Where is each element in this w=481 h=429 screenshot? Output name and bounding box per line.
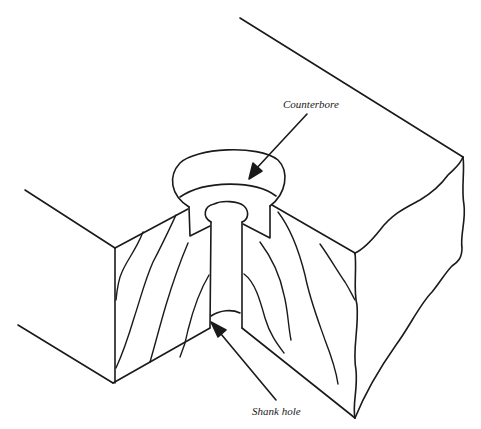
right-section-top-edge <box>272 205 355 253</box>
counterbore-left-wall <box>189 207 210 236</box>
right-block <box>240 18 464 418</box>
shank-hole-bottom-arc <box>211 311 240 316</box>
counterbore-floor-arc <box>180 184 276 197</box>
arrowhead-icon <box>211 322 226 337</box>
counterbore-rim <box>173 150 285 207</box>
right-block-front-edge <box>354 253 357 418</box>
shank-hole-arrow <box>211 322 276 400</box>
shank-hole-label: Shank hole <box>252 405 301 417</box>
right-block-torn-end <box>355 157 464 418</box>
counterbore-diagram <box>0 0 481 429</box>
right-block-top-edge <box>240 18 463 157</box>
left-block-top-edge <box>25 190 115 248</box>
left-block-top-front-edge <box>115 209 188 248</box>
shank-hole <box>205 202 247 328</box>
counterbore-opening <box>173 150 285 207</box>
counterbore-label: Counterbore <box>283 98 339 110</box>
wood-grain-left <box>116 215 209 368</box>
right-block-torn-top <box>355 157 463 253</box>
left-block-bottom-edge <box>18 325 113 383</box>
counterbore-section <box>189 205 355 253</box>
shank-hole-cap <box>205 202 247 222</box>
counterbore-arrow <box>249 114 307 179</box>
shank-hole-left-wall <box>210 222 211 328</box>
wood-grain-right <box>244 212 355 384</box>
